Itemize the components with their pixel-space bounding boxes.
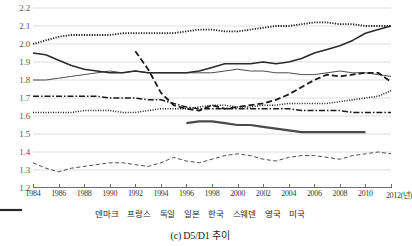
x-axis-tick-label: 1986: [51, 189, 66, 198]
x-axis-tick-label: 1996: [179, 189, 194, 198]
legend-item-미국[interactable]: 미국: [289, 207, 304, 219]
legend-item-스웨덴[interactable]: 스웨덴: [233, 207, 256, 219]
series-line-france: [33, 69, 391, 80]
series-line-united-kingdom: [33, 26, 391, 73]
legend-item-일본[interactable]: 일본: [184, 207, 199, 219]
series-line-united-states: [33, 91, 391, 113]
x-axis-tick-label: 1984: [26, 189, 41, 198]
legend-item-프랑스[interactable]: 프랑스: [127, 207, 150, 219]
legend-label: 일본: [184, 207, 199, 219]
x-axis-tick: [263, 184, 264, 188]
legend-item-덴마크[interactable]: 덴마크: [95, 207, 118, 219]
series-line-japan: [33, 96, 391, 112]
x-axis-tick: [238, 184, 239, 188]
y-axis-tick-label: 1.9: [19, 57, 30, 67]
y-axis-tick-label: 1.8: [19, 75, 30, 85]
x-axis-tick: [212, 184, 213, 188]
plot-area: [33, 8, 391, 188]
legend-label: 프랑스: [127, 207, 150, 219]
y-axis-labels: 1.21.31.41.51.61.71.81.92.02.12.2: [0, 8, 30, 188]
legend-label: 독일: [160, 207, 175, 219]
legend-label: 스웨덴: [233, 207, 256, 219]
x-axis-tick: [84, 184, 85, 188]
y-axis-tick-label: 1.5: [19, 129, 30, 139]
y-axis-tick-label: 2.2: [19, 3, 30, 13]
x-axis-tick-label: 1998: [205, 189, 220, 198]
data-lines: [33, 8, 391, 188]
figure-caption: (c) D5/D1 추이: [0, 227, 400, 242]
legend-label: 영국: [265, 207, 280, 219]
y-axis-tick-label: 2.1: [19, 21, 30, 31]
legend-label: 미국: [289, 207, 304, 219]
x-axis-tick-label: 1990: [102, 189, 117, 198]
legend-item-한국[interactable]: 한국: [208, 207, 223, 219]
y-axis-tick-label: 1.6: [19, 111, 30, 121]
x-axis-tick: [314, 184, 315, 188]
legend-item-독일[interactable]: 독일: [160, 207, 175, 219]
x-axis-tick-label: 2012(년): [386, 189, 412, 200]
x-axis-tick-label: 2010: [358, 189, 373, 198]
series-line-sweden: [33, 152, 391, 172]
x-axis-tick-label: 2004: [281, 189, 296, 198]
x-axis-tick: [365, 184, 366, 188]
y-axis-tick-label: 1.7: [19, 93, 30, 103]
x-axis-tick-label: 2008: [332, 189, 347, 198]
legend-item-영국[interactable]: 영국: [265, 207, 280, 219]
chart-legend: 덴마크프랑스독일일본한국스웨덴영국미국: [0, 206, 400, 220]
x-axis-tick: [59, 184, 60, 188]
x-axis-tick: [340, 184, 341, 188]
x-axis-tick: [33, 184, 34, 188]
x-axis-tick: [110, 184, 111, 188]
x-axis-tick: [161, 184, 162, 188]
x-axis-tick-label: 2006: [307, 189, 322, 198]
x-axis-tick: [391, 184, 392, 188]
x-axis-tick-label: 1992: [128, 189, 143, 198]
x-axis-tick: [186, 184, 187, 188]
x-axis-labels: 1984198619881990199219941996199820002002…: [33, 189, 391, 203]
legend-swatch: [0, 206, 22, 214]
x-axis-tick-label: 2000: [230, 189, 245, 198]
series-line-korea: [186, 121, 365, 132]
x-axis-tick-label: 1994: [153, 189, 168, 198]
x-axis-tick-label: 2002: [256, 189, 271, 198]
x-axis-tick: [135, 184, 136, 188]
legend-label: 덴마크: [95, 207, 118, 219]
x-axis-tick: [289, 184, 290, 188]
x-axis-tick-label: 1988: [77, 189, 92, 198]
y-axis-tick-label: 1.4: [19, 147, 30, 157]
series-line-germany: [135, 51, 391, 110]
series-line-denmark: [33, 22, 391, 44]
legend-label: 한국: [208, 207, 223, 219]
y-axis-tick-label: 1.3: [19, 165, 30, 175]
y-axis-tick-label: 2.0: [19, 39, 30, 49]
